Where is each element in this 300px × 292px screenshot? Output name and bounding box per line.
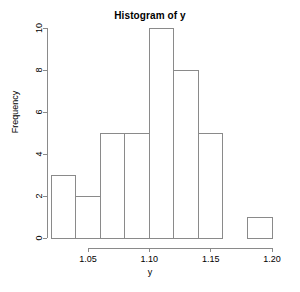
x-axis: 1.051.101.151.20 (79, 248, 281, 264)
chart-canvas: 0246810 1.051.101.151.20 (0, 0, 300, 292)
y-axis: 0246810 (34, 23, 47, 241)
histogram-bar (76, 196, 101, 238)
histogram-bar (100, 133, 125, 238)
histogram-bar (198, 133, 223, 238)
x-axis-tick-label: 1.05 (79, 254, 97, 264)
histogram-bar (125, 133, 150, 238)
histogram-bar (248, 217, 273, 238)
y-axis-tick-label: 0 (34, 235, 44, 240)
histogram-bars (51, 28, 272, 238)
y-axis-tick-label: 8 (34, 67, 44, 72)
x-axis-tick-label: 1.20 (263, 254, 281, 264)
histogram-bar (149, 28, 174, 238)
x-axis-tick-label: 1.10 (141, 254, 159, 264)
histogram-bar (51, 175, 75, 238)
y-axis-tick-label: 10 (34, 23, 44, 33)
y-axis-tick-label: 4 (34, 151, 44, 156)
histogram-bar (174, 70, 199, 238)
y-axis-tick-label: 2 (34, 193, 44, 198)
y-axis-tick-label: 6 (34, 109, 44, 114)
x-axis-tick-label: 1.15 (202, 254, 220, 264)
histogram-plot-container: Histogram of y Frequency y 0246810 1.051… (0, 0, 300, 292)
